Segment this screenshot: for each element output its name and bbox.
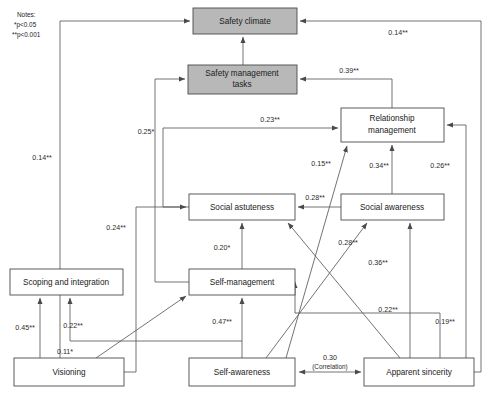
- edge-relmgmt-to-safety-tasks: [300, 79, 392, 108]
- notes-heading: Notes:: [17, 11, 36, 18]
- edge-apparent-to-selfmgmt: [295, 282, 440, 358]
- edge-label-selfmgmt-to-astuteness: 0.20*: [214, 244, 231, 252]
- node-label-relationship-management-line2: management: [368, 126, 417, 135]
- node-self-management[interactable]: Self-management: [189, 269, 295, 295]
- path-diagram-container: 0.14** 0.14** 0.39** 0.25* 0.23** 0.15**…: [0, 0, 488, 400]
- node-apparent-sincerity[interactable]: Apparent sincerity: [364, 358, 474, 386]
- edge-selfaware-to-relmgmt: [286, 146, 347, 358]
- node-relationship-management[interactable]: Relationship management: [341, 108, 444, 142]
- notes-line-2: **p<0.001: [12, 31, 41, 39]
- edge-label-visioning-to-scoping: 0.45**: [15, 324, 35, 332]
- edge-label-selfaware-to-selfmgmt: 0.47**: [212, 318, 232, 326]
- node-label-visioning: Visioning: [52, 368, 86, 377]
- edge-label-visioning-to-safety-climate: 0.14**: [32, 154, 52, 162]
- edge-label-socawareness-to-relmgmt: 0.34**: [369, 162, 389, 170]
- edge-label-socaware-to-astuteness: 0.28**: [305, 194, 325, 202]
- node-safety-climate[interactable]: Safety climate: [193, 8, 297, 34]
- edge-label-apparent-to-selfmgmt: 0.19**: [435, 318, 455, 326]
- node-social-astuteness[interactable]: Social astuteness: [189, 194, 295, 220]
- edge-label-visioning-to-selfmgmt: 0.11*: [57, 348, 73, 356]
- edge-label-selfaware-to-scoping: 0.22**: [63, 322, 83, 330]
- node-label-scoping-and-integration: Scoping and integration: [23, 278, 109, 287]
- correlation-caption: (Correlation): [312, 363, 348, 371]
- node-safety-management-tasks[interactable]: Safety management tasks: [188, 65, 297, 94]
- node-social-awareness[interactable]: Social awareness: [341, 194, 444, 220]
- node-label-social-awareness: Social awareness: [360, 203, 424, 212]
- edge-label-astuteness-to-relmgmt: 0.23**: [260, 116, 280, 124]
- node-label-relationship-management-line1: Relationship: [369, 114, 415, 123]
- node-label-safety-climate: Safety climate: [219, 17, 271, 26]
- node-visioning[interactable]: Visioning: [14, 358, 124, 386]
- path-diagram-canvas: 0.14** 0.14** 0.39** 0.25* 0.23** 0.15**…: [0, 0, 488, 400]
- notes-block: Notes: *p<0.05 **p<0.001: [12, 11, 41, 39]
- edge-label-apparent-to-astuteness: 0.22**: [378, 306, 398, 314]
- node-label-safety-management-tasks-line1: Safety management: [205, 69, 279, 78]
- node-label-safety-management-tasks-line2: tasks: [232, 80, 251, 89]
- edge-visioning-to-safety-climate: [60, 21, 190, 358]
- node-scoping-and-integration[interactable]: Scoping and integration: [10, 269, 123, 295]
- edge-apparent-to-relmgmt: [447, 125, 474, 366]
- edge-label-apparent-to-relmgmt: 0.26**: [430, 162, 450, 170]
- edge-label-apparent-to-socaware: 0.36**: [368, 259, 388, 267]
- node-label-apparent-sincerity: Apparent sincerity: [386, 368, 452, 377]
- notes-line-1: *p<0.05: [14, 21, 37, 29]
- correlation-value: 0.30: [323, 354, 337, 362]
- node-label-social-astuteness: Social astuteness: [210, 203, 274, 212]
- edge-label-relmgmt-to-safety-tasks: 0.39**: [339, 67, 359, 75]
- node-label-self-awareness: Self-awareness: [214, 368, 270, 377]
- edge-label-selfaware-to-socaware: 0.28**: [338, 239, 358, 247]
- edge-label-visioning-to-astuteness: 0.24**: [106, 224, 126, 232]
- edge-label-apparent-to-safety-climate: 0.14**: [388, 29, 408, 37]
- node-self-awareness[interactable]: Self-awareness: [189, 358, 295, 386]
- edge-label-selfaware-to-relmgmt: 0.15**: [311, 160, 331, 168]
- edge-label-selfmgmt-to-safety-tasks: 0.25*: [138, 128, 155, 136]
- node-label-self-management: Self-management: [210, 278, 275, 287]
- edge-selfmgmt-to-safety-tasks: [155, 79, 189, 282]
